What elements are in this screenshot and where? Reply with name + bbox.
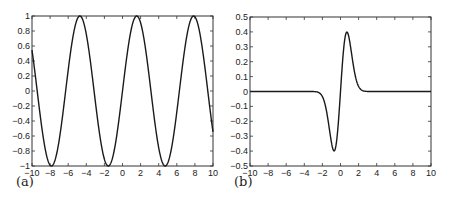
- figure: −10−8−6−4−20246810−1−0.8−0.6−0.4−0.200.2…: [0, 0, 450, 204]
- x-tick-label: −2: [317, 168, 327, 178]
- x-tick-label: 4: [374, 168, 379, 178]
- x-tick-label: 4: [156, 168, 161, 178]
- x-tick-label: 6: [174, 168, 179, 178]
- y-tick-label: 0.5: [235, 12, 248, 22]
- x-tick-label: −6: [63, 168, 73, 178]
- y-tick-label: 0.2: [235, 57, 248, 67]
- data-line: [250, 32, 431, 151]
- panel-label: (b): [234, 174, 252, 189]
- x-tick-label: −4: [81, 168, 91, 178]
- data-line: [32, 16, 213, 166]
- x-tick-label: −8: [45, 168, 55, 178]
- x-tick-label: −4: [299, 168, 309, 178]
- x-tick-label: 8: [192, 168, 197, 178]
- y-tick-label: −0.2: [230, 116, 248, 126]
- y-tick-label: −0.8: [12, 146, 30, 156]
- y-tick-label: 0.1: [235, 72, 248, 82]
- x-tick-label: 2: [356, 168, 361, 178]
- x-tick-label: 10: [208, 168, 218, 178]
- x-tick-label: −6: [281, 168, 291, 178]
- panel-label: (a): [16, 174, 34, 189]
- y-tick-label: −1: [20, 161, 30, 171]
- y-tick-label: −0.4: [12, 116, 30, 126]
- chart-panel-a: −10−8−6−4−20246810−1−0.8−0.6−0.4−0.200.2…: [12, 11, 218, 189]
- y-tick-label: 0.8: [17, 26, 30, 36]
- chart-panel-b: −10−8−6−4−20246810−0.5−0.4−0.3−0.2−0.100…: [230, 12, 436, 189]
- y-tick-label: 0.6: [17, 41, 30, 51]
- x-tick-label: 6: [392, 168, 397, 178]
- y-tick-label: 0.4: [235, 27, 248, 37]
- y-tick-label: −0.6: [12, 131, 30, 141]
- y-tick-label: 0.4: [17, 56, 30, 66]
- x-tick-label: 10: [426, 168, 436, 178]
- x-tick-label: −2: [99, 168, 109, 178]
- x-tick-label: 0: [120, 168, 125, 178]
- y-tick-label: −0.3: [230, 131, 248, 141]
- y-tick-label: −0.5: [230, 161, 248, 171]
- y-tick-label: 0.2: [17, 71, 30, 81]
- y-tick-label: −0.1: [230, 101, 248, 111]
- y-tick-label: 0: [25, 86, 30, 96]
- y-tick-label: 1: [25, 11, 30, 21]
- y-tick-label: −0.2: [12, 101, 30, 111]
- y-tick-label: 0: [243, 87, 248, 97]
- x-tick-label: 0: [338, 168, 343, 178]
- y-tick-label: 0.3: [235, 42, 248, 52]
- x-tick-label: 8: [410, 168, 415, 178]
- y-tick-label: −0.4: [230, 146, 248, 156]
- x-tick-label: −8: [263, 168, 273, 178]
- x-tick-label: 2: [138, 168, 143, 178]
